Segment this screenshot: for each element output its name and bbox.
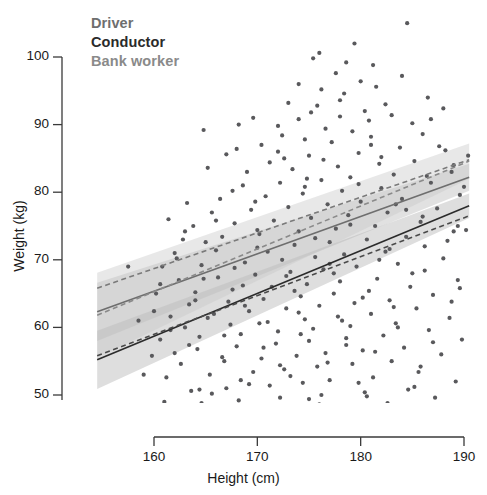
data-point (388, 247, 392, 251)
data-point (233, 266, 237, 270)
data-point (338, 114, 342, 118)
data-point (421, 132, 425, 136)
data-point (268, 160, 272, 164)
data-point (181, 237, 185, 241)
data-point (224, 152, 228, 156)
data-point (342, 252, 346, 256)
data-point (342, 91, 346, 95)
data-point (456, 278, 460, 282)
data-point (319, 87, 323, 91)
data-point (264, 416, 268, 420)
data-point (197, 387, 201, 391)
data-point (371, 375, 375, 379)
data-point (214, 248, 218, 252)
data-point (266, 320, 270, 324)
data-point (297, 82, 301, 86)
data-point (307, 397, 311, 401)
data-point (323, 351, 327, 355)
data-point (357, 151, 361, 155)
data-point (278, 181, 282, 185)
data-point (245, 170, 249, 174)
data-point (272, 410, 276, 414)
data-point (328, 378, 332, 382)
data-point (222, 359, 226, 363)
data-point (437, 144, 441, 148)
data-point (429, 181, 433, 185)
data-point (253, 200, 257, 204)
data-point (392, 173, 396, 177)
data-point (373, 224, 377, 228)
data-point (228, 323, 232, 327)
data-point (346, 213, 350, 217)
data-point (282, 156, 286, 160)
data-point (452, 229, 456, 233)
data-point (367, 289, 371, 293)
data-point (426, 95, 430, 99)
data-point (350, 362, 354, 366)
data-point (431, 340, 435, 344)
data-point (385, 210, 389, 214)
data-point (251, 370, 255, 374)
data-point (142, 373, 146, 377)
data-point (383, 250, 387, 254)
data-point (421, 214, 425, 218)
data-point (357, 182, 361, 186)
data-point (179, 405, 183, 409)
data-point (317, 304, 321, 308)
data-point (214, 218, 218, 222)
data-point (344, 60, 348, 64)
data-point (259, 143, 263, 147)
data-point (158, 282, 162, 286)
data-point (290, 167, 294, 171)
data-point (408, 285, 412, 289)
legend-item-conductor: Conductor (91, 33, 179, 52)
data-point (405, 21, 409, 25)
data-point (375, 277, 379, 281)
data-point (249, 208, 253, 212)
data-point (334, 227, 338, 231)
data-point (272, 218, 276, 222)
data-point (185, 201, 189, 205)
data-point (297, 117, 301, 121)
data-point (330, 140, 334, 144)
data-point (414, 306, 418, 310)
data-point (237, 123, 241, 127)
data-point (412, 385, 416, 389)
data-point (158, 337, 162, 341)
data-point (445, 239, 449, 243)
x-tick-label: 170 (227, 449, 287, 464)
data-point (458, 286, 462, 290)
data-point (261, 346, 265, 350)
data-point (206, 316, 210, 320)
data-point (398, 145, 402, 149)
data-point (466, 154, 470, 158)
data-point (150, 354, 154, 358)
data-point (257, 321, 261, 325)
data-point (168, 314, 172, 318)
data-point (222, 333, 226, 337)
data-point (431, 293, 435, 297)
data-point (218, 197, 222, 201)
y-tick-label: 50 (0, 386, 49, 401)
data-point (330, 419, 334, 423)
x-axis-title: Height (cm) (0, 470, 487, 486)
data-point (307, 154, 311, 158)
data-point (204, 240, 208, 244)
data-point (195, 347, 199, 351)
data-point (363, 390, 367, 394)
data-point (313, 406, 317, 410)
data-point (369, 312, 373, 316)
data-point (245, 412, 249, 416)
y-tick-label: 70 (0, 251, 49, 266)
data-point (255, 228, 259, 232)
data-point (284, 306, 288, 310)
data-point (197, 335, 201, 339)
scatter-plot-figure: Driver Conductor Bank worker Height (cm)… (0, 0, 487, 495)
data-point (390, 359, 394, 363)
data-point (450, 300, 454, 304)
data-point (404, 208, 408, 212)
data-point (162, 400, 166, 404)
data-point (336, 164, 340, 168)
data-point (400, 74, 404, 78)
confidence-bands-layer (97, 144, 469, 389)
